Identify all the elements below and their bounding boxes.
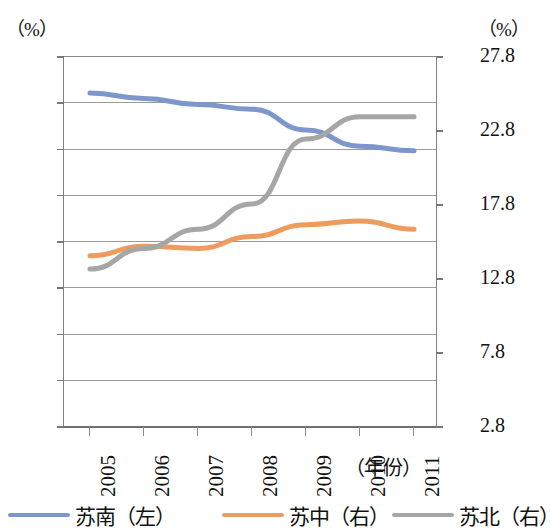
legend-color-swatch xyxy=(222,513,284,517)
x-axis-title: （年份） xyxy=(345,452,421,481)
x-axis-tick-label: 2006 xyxy=(152,455,173,497)
x-axis-tick-label: 2011 xyxy=(422,456,443,497)
x-axis-tick-label: 2007 xyxy=(206,455,227,497)
chart-legend: 苏南（左）苏中（右）苏北（右） xyxy=(0,500,546,530)
x-axis-tick-label: 2009 xyxy=(314,455,335,497)
legend-label: 苏北（右） xyxy=(459,500,551,530)
legend-item[interactable]: 苏北（右） xyxy=(392,500,551,530)
x-axis-tick-label: 2005 xyxy=(98,455,119,497)
legend-color-swatch xyxy=(8,513,70,517)
legend-item[interactable]: 苏中（右） xyxy=(222,500,389,530)
legend-color-swatch xyxy=(392,513,454,517)
legend-label: 苏中（右） xyxy=(289,500,389,530)
x-axis-tick-label: 2008 xyxy=(260,455,281,497)
legend-item[interactable]: 苏南（左） xyxy=(8,500,175,530)
legend-label: 苏南（左） xyxy=(75,500,175,530)
